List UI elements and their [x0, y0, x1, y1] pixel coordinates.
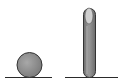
sphere [17, 53, 42, 78]
capsule [84, 8, 96, 78]
diagram-canvas [0, 0, 122, 83]
capsule-tip-highlight [85, 8, 93, 24]
